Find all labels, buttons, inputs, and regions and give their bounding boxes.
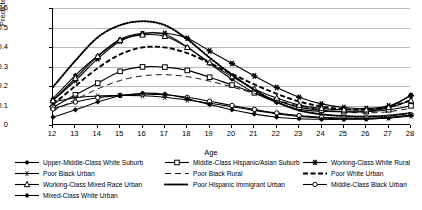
- series-0: [50, 31, 413, 115]
- legend-swatch-icon: [164, 169, 190, 178]
- data-point: [296, 102, 302, 107]
- data-point: [50, 115, 55, 120]
- data-point: [118, 69, 123, 74]
- legend-swatch-icon: [302, 158, 328, 167]
- legend-marker: [313, 182, 317, 186]
- legend-marker: [24, 193, 29, 198]
- x-tick-label: 18: [174, 130, 198, 138]
- data-point: [252, 107, 256, 111]
- data-point: [252, 111, 257, 116]
- x-tick-mark: [321, 125, 322, 128]
- x-tick-label: 20: [219, 130, 243, 138]
- series-7: [53, 21, 411, 116]
- data-point: [185, 68, 190, 73]
- data-point: [96, 96, 100, 100]
- legend-marker: [312, 160, 318, 165]
- legend-swatch-icon: [302, 169, 328, 178]
- x-axis-title: Age: [0, 148, 422, 157]
- legend-item: Poor Hispanic Immigrant Urban: [164, 180, 302, 189]
- legend-label: Upper-Middle-Class White Suburb: [43, 159, 143, 167]
- data-point: [73, 107, 78, 112]
- legend-item: Mixed-Class White Urban: [14, 191, 164, 200]
- data-point: [51, 107, 55, 111]
- legend-swatch-icon: [14, 180, 40, 189]
- legend-item: Middle-Class Hispanic/Asian Suburb: [164, 158, 302, 167]
- y-tick-label: 0: [0, 121, 8, 129]
- x-tick-label: 23: [286, 130, 310, 138]
- data-point: [229, 107, 234, 112]
- data-point: [275, 111, 279, 115]
- data-point: [274, 115, 279, 120]
- data-point: [274, 95, 280, 100]
- legend-marker: [24, 160, 29, 165]
- legend-item: Poor Black Urban: [14, 169, 164, 178]
- legend-label: Poor White Urban: [331, 170, 383, 178]
- y-tick-label: 0.3: [0, 63, 8, 71]
- x-tick-label: 15: [107, 130, 131, 138]
- legend-label: Poor Black Urban: [43, 170, 95, 178]
- legend-label: Mixed-Class White Urban: [43, 192, 118, 200]
- x-tick-label: 22: [264, 130, 288, 138]
- x-tick-label: 12: [40, 130, 64, 138]
- y-tick-label: 0.5: [0, 24, 8, 32]
- x-tick-mark: [343, 125, 344, 128]
- legend-label: Working-Class Mixed Race Urban: [43, 181, 142, 189]
- chart-legend: Upper-Middle-Class White SuburbMiddle-Cl…: [14, 158, 410, 200]
- legend-label: Poor Black Rural: [193, 170, 242, 178]
- legend-item: Upper-Middle-Class White Suburb: [14, 158, 164, 167]
- legend-label: Working-Class White Rural: [331, 159, 410, 167]
- legend-item: Middle-Class Black Urban: [302, 180, 410, 189]
- x-tick-label: 14: [85, 130, 109, 138]
- data-point: [363, 107, 369, 112]
- legend-swatch-icon: [164, 180, 190, 189]
- legend-swatch-icon: [14, 169, 40, 178]
- legend-item: Poor White Urban: [302, 169, 410, 178]
- x-tick-mark: [365, 125, 366, 128]
- x-tick-label: 19: [197, 130, 221, 138]
- x-tick-mark: [186, 125, 187, 128]
- plot-area: [52, 8, 410, 125]
- x-tick-mark: [388, 125, 389, 128]
- legend-marker: [175, 160, 180, 165]
- data-point: [251, 73, 257, 78]
- series-lines: [53, 8, 411, 125]
- legend-label: Middle-Class Hispanic/Asian Suburb: [193, 159, 300, 167]
- x-tick-mark: [119, 125, 120, 128]
- y-tick-label: 0.4: [0, 43, 8, 51]
- data-point: [230, 103, 234, 107]
- legend-swatch-icon: [14, 191, 40, 200]
- x-tick-label: 16: [130, 130, 154, 138]
- legend-label: Middle-Class Black Urban: [331, 181, 407, 189]
- y-tick-label: 0.1: [0, 102, 8, 110]
- x-tick-mark: [276, 125, 277, 128]
- series-2: [50, 31, 414, 111]
- x-tick-label: 17: [152, 130, 176, 138]
- x-tick-label: 25: [331, 130, 355, 138]
- data-point: [409, 104, 414, 109]
- data-point: [207, 60, 213, 65]
- legend-item: Working-Class Mixed Race Urban: [14, 180, 164, 189]
- legend-marker: [24, 171, 30, 176]
- data-point: [296, 95, 302, 100]
- x-tick-label: 21: [241, 130, 265, 138]
- x-tick-mark: [97, 125, 98, 128]
- legend-swatch-icon: [14, 158, 40, 167]
- data-point: [140, 65, 145, 70]
- x-tick-label: 13: [62, 130, 86, 138]
- x-tick-mark: [298, 125, 299, 128]
- data-point: [73, 100, 77, 104]
- legend-item: Poor Black Rural: [164, 169, 302, 178]
- data-point: [229, 61, 235, 66]
- data-point: [95, 81, 100, 86]
- x-tick-mark: [52, 125, 53, 128]
- x-tick-label: 26: [353, 130, 377, 138]
- legend-marker: [24, 182, 30, 187]
- x-tick-mark: [74, 125, 75, 128]
- y-tick-label: 0.2: [0, 82, 8, 90]
- series-line: [53, 33, 411, 109]
- x-tick-mark: [209, 125, 210, 128]
- data-point: [73, 92, 78, 97]
- legend-item: Working-Class White Rural: [302, 158, 410, 167]
- x-tick-label: 24: [309, 130, 333, 138]
- series-line: [53, 21, 411, 116]
